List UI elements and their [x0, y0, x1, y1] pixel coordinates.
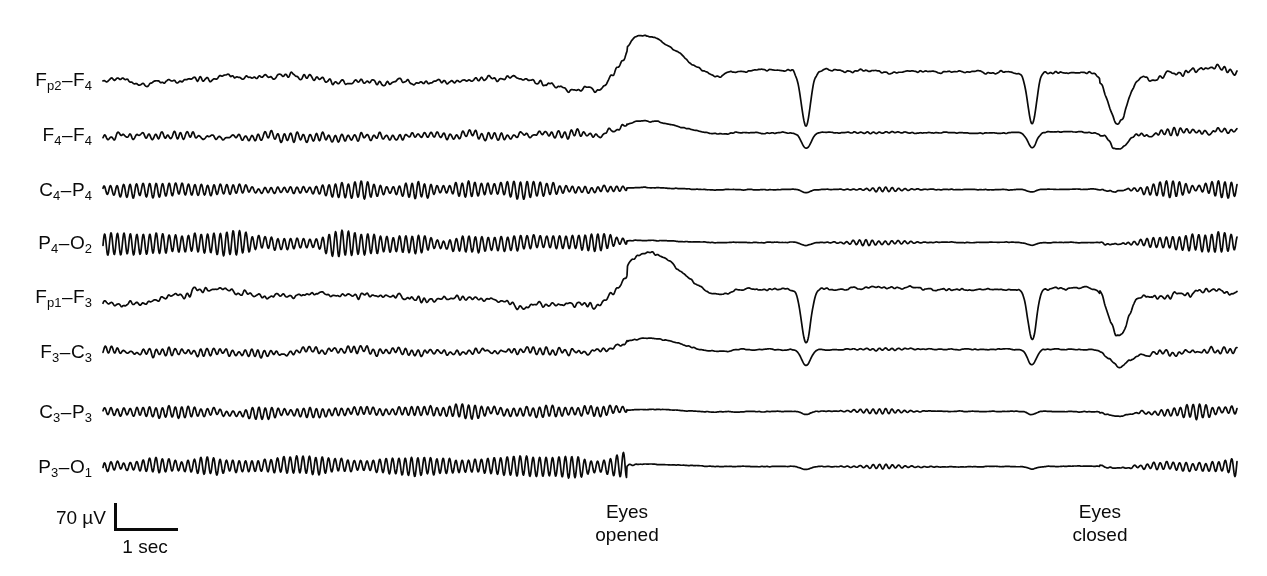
channel-p3-o1-label: P3–O1 [38, 456, 92, 478]
scale-amplitude-label: 70 µV [56, 507, 106, 529]
event-eyes-opened-line1: Eyes [595, 500, 658, 523]
channel-f3-c3-label: F3–C3 [40, 341, 92, 363]
channel-c3-p3-label: C3–P3 [39, 401, 92, 423]
event-eyes-closed-line2: closed [1073, 523, 1128, 546]
channel-p4-o2-label: P4–O2 [38, 232, 92, 254]
event-eyes-opened: Eyesopened [595, 500, 658, 546]
channel-fp2-f4-label: Fp2–F4 [35, 69, 92, 91]
scale-bar-horizontal [114, 528, 178, 531]
event-eyes-opened-line2: opened [595, 523, 658, 546]
event-eyes-closed: Eyesclosed [1073, 500, 1128, 546]
channel-c4-p4-label: C4–P4 [39, 179, 92, 201]
eeg-trace-canvas [0, 0, 1267, 576]
scale-time-label: 1 sec [122, 536, 167, 558]
event-eyes-closed-line1: Eyes [1073, 500, 1128, 523]
channel-f4-f4-label: F4–F4 [42, 124, 92, 146]
scale-bar-vertical [114, 503, 117, 531]
channel-fp1-f3-label: Fp1–F3 [35, 286, 92, 308]
eeg-figure: Fp2–F4F4–F4C4–P4P4–O2Fp1–F3F3–C3C3–P3P3–… [0, 0, 1267, 576]
